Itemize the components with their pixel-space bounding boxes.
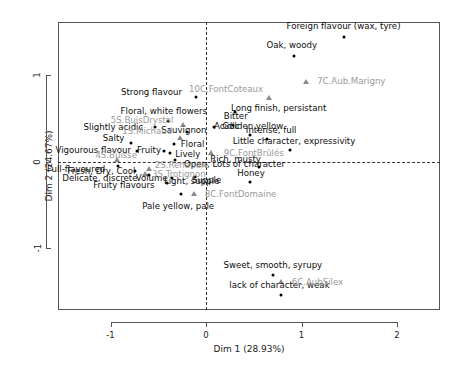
pca-biplot: Dim 1 (28.93%) Dim 2 (24.67%) -1012-101 …	[0, 0, 449, 368]
data-point-marker	[289, 148, 292, 151]
y-tick-label: 0	[32, 159, 42, 164]
data-point-label: Lively	[175, 150, 200, 159]
data-point-label: Sweet, smooth, syrupy	[224, 260, 323, 269]
x-tick-label: 1	[299, 330, 304, 340]
y-tick	[46, 162, 51, 163]
x-axis-title: Dim 1 (28.93%)	[214, 344, 285, 354]
y-tick-label: -1	[33, 244, 43, 252]
data-point-label: Pale yellow, pale	[142, 202, 214, 211]
data-point-label: Oak, woody	[267, 41, 318, 50]
x-axis-line	[111, 322, 398, 323]
data-point-label: 6C.AubSilex	[292, 278, 343, 287]
data-point-marker	[168, 152, 171, 155]
data-point-marker	[129, 141, 132, 144]
data-point-marker	[292, 55, 295, 58]
data-point-marker	[163, 150, 166, 153]
data-point-label: Fruity flavours	[93, 181, 154, 190]
data-point-label: 9C.FontBrûlés	[224, 149, 284, 158]
data-point-marker	[342, 35, 345, 38]
data-point-label: 10C.FontCoteaux	[189, 85, 263, 94]
data-point-marker	[180, 193, 183, 196]
x-tick-label: 0	[203, 330, 208, 340]
data-point-label: Salty	[103, 133, 125, 142]
data-point-marker	[303, 79, 309, 84]
data-point-label: 1S.Michaud	[122, 126, 172, 135]
data-point-label: Strong flavour	[121, 88, 182, 97]
data-point-label: 5S.BuisDrystal	[111, 115, 174, 124]
y-tick-label: 1	[32, 73, 42, 78]
data-point-label: 7C.Aub.Marigny	[317, 77, 385, 86]
data-point-label: Intense, full	[246, 126, 297, 135]
data-point-marker	[172, 142, 175, 145]
x-tick	[206, 322, 207, 327]
x-tick	[397, 322, 398, 327]
x-tick-label: -1	[106, 330, 114, 340]
data-point-label: Honey	[237, 168, 265, 177]
y-tick	[46, 75, 51, 76]
data-point-label: 8C.FontDomaine	[205, 189, 277, 198]
data-point-marker	[280, 294, 283, 297]
data-point-marker	[194, 96, 197, 99]
y-tick	[46, 248, 51, 249]
x-tick	[111, 322, 112, 327]
data-point-label: 4S.Buisse	[95, 151, 137, 160]
data-point-marker	[248, 180, 251, 183]
data-point-label: Fruity	[137, 146, 161, 155]
x-tick-label: 2	[394, 330, 399, 340]
data-point-marker	[266, 95, 272, 100]
x-tick	[302, 322, 303, 327]
data-point-marker	[191, 191, 197, 196]
data-point-label: Floral	[181, 139, 205, 148]
data-point-label: Little character, expressivity	[233, 136, 356, 145]
data-point-marker	[271, 273, 274, 276]
data-point-label: Foreign flavour (wax, tyre)	[287, 21, 401, 30]
data-point-label: 3S.Trotignon	[152, 169, 206, 178]
data-point-label: Bitter	[224, 112, 248, 121]
